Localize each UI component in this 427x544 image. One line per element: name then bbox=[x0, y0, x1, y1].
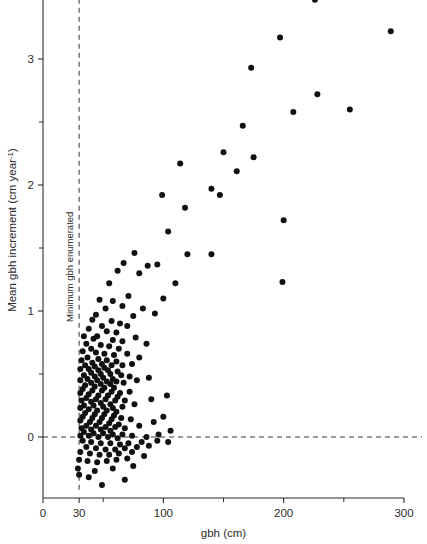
data-point bbox=[119, 338, 125, 344]
data-point bbox=[95, 434, 101, 440]
data-point bbox=[106, 452, 112, 458]
data-point bbox=[103, 447, 109, 453]
data-point bbox=[136, 423, 142, 429]
data-point bbox=[116, 346, 122, 352]
data-point bbox=[115, 268, 121, 274]
data-point bbox=[234, 168, 240, 174]
data-point bbox=[97, 452, 103, 458]
data-point bbox=[89, 317, 95, 323]
data-point bbox=[129, 361, 135, 367]
data-point bbox=[122, 445, 128, 451]
data-point bbox=[91, 336, 97, 342]
data-point bbox=[107, 440, 113, 446]
plot-canvas: 0123030100200300Minimum gbh enumeratedgb… bbox=[0, 0, 427, 544]
minimum-gbh-enumerated-label: Minimum gbh enumerated bbox=[64, 212, 75, 322]
data-point bbox=[125, 293, 131, 299]
y-tick-label: 1 bbox=[28, 305, 34, 317]
data-point bbox=[122, 477, 128, 483]
data-point bbox=[240, 123, 246, 129]
y-axis-title-tail: ) bbox=[6, 148, 18, 152]
data-point bbox=[100, 430, 106, 436]
data-point bbox=[136, 270, 142, 276]
data-point bbox=[146, 443, 152, 449]
data-point bbox=[127, 374, 133, 380]
data-point bbox=[154, 438, 160, 444]
data-point bbox=[143, 341, 149, 347]
data-point bbox=[118, 415, 124, 421]
data-point bbox=[77, 366, 83, 372]
data-point bbox=[165, 229, 171, 235]
data-point bbox=[93, 423, 99, 429]
data-point bbox=[94, 459, 100, 465]
data-point bbox=[86, 433, 92, 439]
data-point bbox=[165, 439, 171, 445]
data-point bbox=[314, 91, 320, 97]
data-point bbox=[111, 352, 117, 358]
data-point bbox=[388, 28, 394, 34]
data-point bbox=[93, 445, 99, 451]
data-point bbox=[98, 440, 104, 446]
data-point bbox=[79, 357, 85, 363]
data-point bbox=[113, 329, 119, 335]
data-point bbox=[119, 404, 125, 410]
data-point bbox=[248, 65, 254, 71]
data-point bbox=[134, 444, 140, 450]
data-point bbox=[277, 35, 283, 41]
data-point bbox=[76, 472, 82, 478]
data-point bbox=[125, 440, 131, 446]
x-tick-label: 300 bbox=[394, 507, 413, 519]
data-point bbox=[103, 305, 109, 311]
data-point bbox=[136, 355, 142, 361]
data-point bbox=[93, 350, 99, 356]
data-point bbox=[151, 419, 157, 425]
data-point bbox=[148, 396, 154, 402]
data-point bbox=[121, 260, 127, 266]
x-tick-label: 200 bbox=[274, 507, 293, 519]
data-point bbox=[279, 279, 285, 285]
data-point bbox=[208, 186, 214, 192]
data-point bbox=[99, 482, 105, 488]
data-point bbox=[129, 433, 135, 439]
y-axis-title-main: Mean gbh increment (cm year bbox=[6, 159, 18, 312]
data-point bbox=[140, 305, 146, 311]
data-point bbox=[77, 377, 83, 383]
data-point bbox=[88, 439, 94, 445]
data-point bbox=[80, 348, 86, 354]
data-point bbox=[133, 334, 139, 340]
data-point bbox=[77, 390, 83, 396]
data-point bbox=[110, 466, 116, 472]
data-point bbox=[91, 403, 97, 409]
data-point bbox=[122, 425, 128, 431]
data-point bbox=[159, 192, 165, 198]
data-point bbox=[109, 362, 115, 368]
data-point bbox=[98, 342, 104, 348]
data-point bbox=[113, 358, 119, 364]
data-point bbox=[156, 431, 162, 437]
data-point bbox=[160, 295, 166, 301]
data-point bbox=[134, 377, 140, 383]
data-point bbox=[106, 343, 112, 349]
data-point bbox=[80, 438, 86, 444]
data-point bbox=[124, 455, 130, 461]
data-point bbox=[119, 303, 125, 309]
data-point bbox=[139, 439, 145, 445]
data-point bbox=[85, 355, 91, 361]
data-point bbox=[221, 149, 227, 155]
data-point bbox=[347, 106, 353, 112]
data-point bbox=[113, 457, 119, 463]
data-point bbox=[208, 251, 214, 257]
data-point bbox=[110, 337, 116, 343]
data-point bbox=[105, 434, 111, 440]
data-point bbox=[85, 458, 91, 464]
data-point bbox=[104, 328, 110, 334]
data-point bbox=[130, 463, 136, 469]
x-axis-title: gbh (cm) bbox=[201, 527, 247, 539]
data-point bbox=[119, 431, 125, 437]
data-point-group bbox=[75, 0, 394, 488]
data-point bbox=[112, 397, 118, 403]
data-point bbox=[141, 453, 147, 459]
data-point bbox=[160, 414, 166, 420]
data-point bbox=[88, 346, 94, 352]
data-point bbox=[99, 387, 105, 393]
data-point bbox=[77, 405, 83, 411]
